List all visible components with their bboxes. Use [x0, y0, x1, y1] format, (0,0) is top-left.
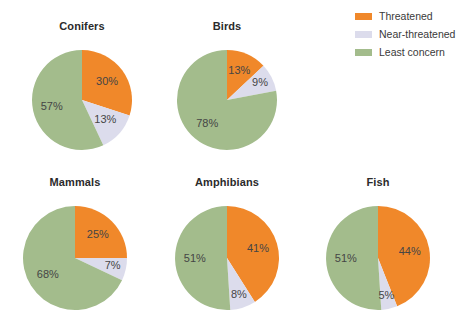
pie-slice-label: 13% [94, 113, 116, 125]
pie-chart-title: Mammals [13, 176, 137, 188]
pie-slice-label: 57% [41, 100, 63, 112]
pie-slice-label: 51% [335, 252, 357, 264]
pie-chart-title: Fish [316, 176, 440, 188]
least-concern-swatch [355, 49, 372, 56]
legend-item-near-threatened[interactable]: Near-threatened [355, 26, 469, 42]
threatened-swatch [355, 13, 372, 20]
pie-slice-label: 7% [105, 259, 121, 271]
legend-item-label: Least concern [379, 47, 445, 58]
pie-slice-label: 5% [378, 289, 394, 301]
pie-slice-label: 9% [252, 76, 268, 88]
pie-slice-label: 25% [87, 228, 109, 240]
pie-graphic: 25%7%68% [21, 204, 129, 312]
pie-chart-title: Amphibians [165, 176, 289, 188]
pie-graphic: 13%9%78% [175, 48, 279, 152]
chart-canvas: Conifers30%13%57%Birds13%9%78%Mammals25%… [0, 0, 469, 331]
pie-slice-label: 8% [231, 288, 247, 300]
pie-slice-label: 13% [228, 64, 250, 76]
pie-slice-label: 41% [247, 242, 269, 254]
pie-graphic: 41%8%51% [173, 204, 281, 312]
pie-slice-label: 68% [37, 268, 59, 280]
legend-item-threatened[interactable]: Threatened [355, 8, 469, 24]
pie-chart-title: Conifers [22, 20, 142, 32]
pie-slice-label: 30% [96, 75, 118, 87]
pie-graphic: 30%13%57% [30, 48, 134, 152]
legend-item-label: Threatened [379, 11, 433, 22]
chart-legend: ThreatenedNear-threatenedLeast concern [355, 8, 469, 62]
pie-chart-title: Birds [167, 20, 287, 32]
pie-slice-label: 44% [399, 245, 421, 257]
pie-graphic: 44%5%51% [324, 204, 432, 312]
near-threatened-swatch [355, 31, 372, 38]
pie-slice-label: 78% [196, 117, 218, 129]
legend-item-least-concern[interactable]: Least concern [355, 44, 469, 60]
pie-slice-label: 51% [184, 252, 206, 264]
legend-item-label: Near-threatened [379, 29, 455, 40]
